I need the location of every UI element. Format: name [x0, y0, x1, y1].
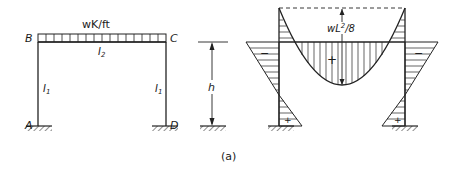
joint-c-label: C [170, 32, 178, 45]
column-moment-right [382, 42, 438, 126]
midspan-moment-label: wL2/8 [327, 22, 355, 34]
beam-positive-sign: + [327, 53, 337, 67]
left-column-inertia-label: I1 [43, 83, 50, 96]
frame-diagram: wK/ft B C A D I2 I1 I1 [24, 18, 178, 132]
left-column-positive-sign: + [284, 115, 292, 125]
right-column-negative-sign: − [414, 47, 423, 60]
uniform-load [38, 34, 166, 42]
figure-caption: (a) [221, 150, 236, 163]
portal-frame-figure: wK/ft B C A D I2 I1 I1 h [0, 0, 459, 176]
right-column-inertia-label: I1 [155, 83, 162, 96]
right-column-positive-sign: + [394, 115, 402, 125]
beam-inertia-label: I2 [98, 46, 106, 59]
bmd-support-left [268, 126, 294, 131]
left-column-negative-sign: − [260, 47, 269, 60]
column-moment-left [246, 42, 302, 126]
joint-b-label: B [25, 32, 33, 45]
load-label: wK/ft [82, 18, 111, 31]
bmd-support-right [392, 126, 418, 131]
height-dimension: h [198, 42, 228, 131]
midspan-moment-dimension: wL2/8 [327, 9, 355, 85]
joint-a-label: A [24, 119, 33, 132]
bending-moment-diagram: wL2/8 + − − + + [246, 8, 438, 131]
joint-d-label: D [170, 119, 178, 132]
height-label: h [208, 81, 215, 94]
